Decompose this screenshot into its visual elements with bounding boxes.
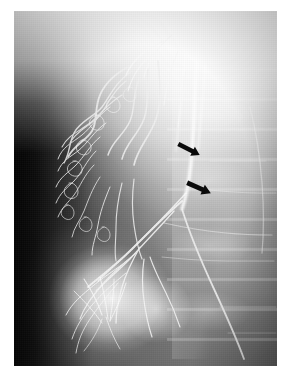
annotation-arrow-upper <box>176 141 202 158</box>
solid-arrow-icon <box>176 141 202 158</box>
radiograph-image <box>14 11 277 366</box>
vascular-tree <box>14 11 277 366</box>
annotation-arrow-lower <box>185 179 213 197</box>
solid-arrow-icon <box>185 179 213 197</box>
collateral-vessel-plexus <box>56 61 160 261</box>
upper-arcade-vessels <box>126 35 186 127</box>
page-root <box>0 0 291 379</box>
